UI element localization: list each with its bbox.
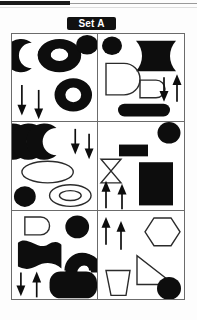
stadium-bar-icon (118, 104, 170, 117)
ellipse-annulus-icon (50, 185, 92, 207)
arrow-up-icon (117, 221, 126, 250)
arrow-down-icon (85, 134, 94, 160)
arrow-down-icon (34, 90, 43, 119)
rounded-rectangle-large-icon (50, 271, 97, 298)
scan-gray-rule (70, 3, 197, 4)
scan-gray-rule-secondary (0, 7, 197, 8)
arrow-down-icon (71, 129, 80, 155)
circle-small-icon (157, 277, 181, 299)
rectangle-large-icon (139, 163, 173, 206)
circle-small-icon (158, 122, 181, 144)
panel-middle-left[interactable]: panel-3 (12, 122, 98, 210)
panel-bottom-left[interactable]: panel-5 (12, 211, 98, 299)
circle-small-icon (102, 36, 122, 55)
arrow-up-icon (118, 184, 127, 210)
arrow-down-icon (17, 85, 26, 115)
d-shape-large-icon (106, 63, 140, 94)
arrow-up-icon (102, 181, 111, 208)
panel-bottom-right[interactable]: panel-6 (98, 211, 184, 299)
d-shape-small-icon (25, 217, 50, 235)
annulus-medium-icon (55, 78, 93, 111)
set-label: Set A (67, 17, 116, 30)
circle-small-icon (65, 215, 89, 238)
scan-black-bar (0, 1, 70, 5)
panel-top-left[interactable]: panel-1 (12, 34, 98, 122)
d-shape-small-icon (140, 80, 165, 98)
rectangle-small-icon (119, 145, 148, 157)
curved-flag-block-icon (136, 41, 176, 71)
panel-middle-right[interactable]: panel-4 (98, 122, 184, 210)
arrow-up-icon (173, 74, 182, 101)
panel-top-right[interactable]: panel-2 (98, 34, 184, 122)
crescent-moon-icon (12, 39, 32, 72)
page-canvas: Set A panel-1 (0, 0, 197, 320)
arch-half-annulus-icon (64, 252, 97, 272)
circle-small-icon (76, 35, 97, 55)
trapezoid-icon (106, 270, 130, 295)
ellipse-large-icon (22, 162, 73, 184)
arrow-down-icon (16, 272, 25, 296)
circle-small-icon (14, 187, 36, 208)
annulus-large-icon (38, 39, 81, 72)
hourglass-bowtie-icon (101, 160, 121, 184)
arrow-up-icon (102, 217, 111, 245)
arrow-up-icon (32, 271, 41, 297)
figure-grid: panel-1 (11, 33, 185, 300)
hexagon-icon (145, 218, 180, 246)
wave-flag-icon (18, 240, 61, 268)
